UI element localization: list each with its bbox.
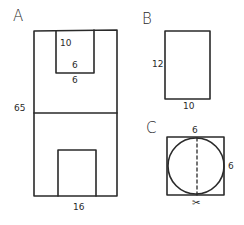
figure-c-circle [168,138,224,194]
figure-c-label: C [146,121,156,136]
figure-b-outline [165,31,210,99]
figure-c-side-label: 6 [228,162,234,171]
figure-a-inner-width-label: 6 [72,61,78,70]
figure-a-height-label: 65 [14,104,25,113]
figure-a-inner-offset-label: 6 [72,76,78,85]
diagram-canvas [0,0,244,225]
scissors-icon: ✂ [192,198,200,208]
figure-a-width-label: 16 [73,203,84,212]
figure-c-top-label: 6 [192,126,198,135]
figure-a-lower-cutout [58,150,96,196]
figure-a-label: A [13,9,23,24]
figure-a-inner-height-label: 10 [60,39,71,48]
figure-b-height-label: 12 [152,60,163,69]
figure-b-width-label: 10 [183,102,194,111]
figure-b-label: B [142,12,152,27]
